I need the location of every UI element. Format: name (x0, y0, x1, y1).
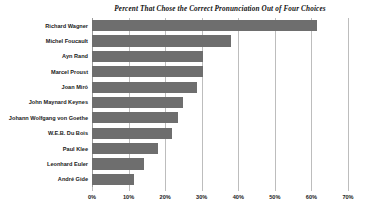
category-label: Richard Wagner (45, 23, 88, 29)
category-label: W.E.B. Du Bois (48, 130, 88, 136)
category-label-wrap: Johann Wolfgang von Goethe (0, 110, 88, 125)
x-tick-label: 0% (77, 194, 107, 200)
category-label-wrap: Michel Foucault (0, 33, 88, 48)
category-label: Ayn Rand (62, 53, 88, 59)
x-tick-label: 50% (260, 194, 290, 200)
category-label: Johann Wolfgang von Goethe (9, 115, 88, 121)
category-label-wrap: Marcel Proust (0, 64, 88, 79)
x-tick-label: 40% (223, 194, 253, 200)
category-label: Leonhard Euler (47, 161, 88, 167)
tick-mark (275, 187, 276, 191)
category-label: Marcel Proust (51, 69, 88, 75)
category-label-wrap: Richard Wagner (0, 18, 88, 33)
category-label-wrap: Paul Klee (0, 141, 88, 156)
category-label-wrap: Leonhard Euler (0, 156, 88, 171)
category-label: John Maynard Keynes (29, 99, 88, 105)
category-label-wrap: W.E.B. Du Bois (0, 126, 88, 141)
category-axis-labels: Richard WagnerMichel FoucaultAyn RandMar… (0, 18, 367, 187)
tick-mark (238, 187, 239, 191)
category-label: Michel Foucault (46, 38, 88, 44)
tick-mark (165, 187, 166, 191)
category-label-wrap: André Gide (0, 172, 88, 187)
x-axis-ticks: 0%10%20%30%40%50%60%70% (92, 187, 348, 207)
category-label-wrap: Joan Miró (0, 79, 88, 94)
tick-mark (129, 187, 130, 191)
tick-mark (202, 187, 203, 191)
x-tick-label: 10% (114, 194, 144, 200)
category-label-wrap: Ayn Rand (0, 49, 88, 64)
bar-chart: Percent That Chose the Correct Pronuncia… (0, 0, 367, 213)
x-tick-label: 20% (150, 194, 180, 200)
category-label: Joan Miró (62, 84, 88, 90)
category-label-wrap: John Maynard Keynes (0, 95, 88, 110)
x-tick-label: 30% (187, 194, 217, 200)
x-tick-label: 60% (296, 194, 326, 200)
x-tick-label: 70% (333, 194, 363, 200)
chart-title: Percent That Chose the Correct Pronuncia… (92, 5, 348, 13)
tick-mark (92, 187, 93, 191)
category-label: André Gide (58, 176, 88, 182)
tick-mark (311, 187, 312, 191)
category-label: Paul Klee (63, 146, 88, 152)
tick-mark (348, 187, 349, 191)
